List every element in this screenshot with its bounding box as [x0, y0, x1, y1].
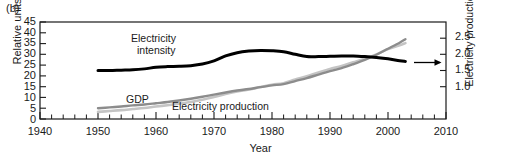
y-axis-left-ticks	[40, 22, 46, 119]
annotation-electricity-intensity-line1: Electricity	[131, 32, 177, 44]
x-axis-ticks	[40, 112, 446, 119]
annotation-electricity-production: Electricity production	[172, 100, 269, 112]
plot-canvas: Electricity intensity GDP Electricity pr…	[0, 0, 513, 159]
annotation-electricity-intensity-line2: intensity	[137, 44, 176, 56]
figure-panel-b: (b) Relative units Electricity productio…	[0, 0, 513, 159]
right-axis-arrow-icon	[414, 59, 442, 65]
annotation-gdp: GDP	[126, 93, 149, 105]
